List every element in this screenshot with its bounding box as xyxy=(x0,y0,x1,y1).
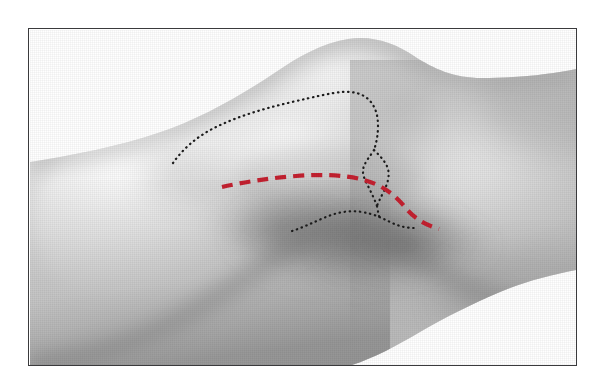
photo-svg-layer xyxy=(30,30,576,365)
figure-border-frame xyxy=(28,28,577,366)
figure-root: Grayscale photograph of a knee in latera… xyxy=(0,0,603,386)
knee-photograph xyxy=(30,30,576,365)
